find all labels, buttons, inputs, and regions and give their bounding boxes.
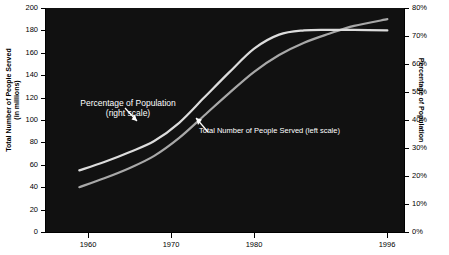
tick-label: 200 bbox=[10, 3, 38, 12]
tick-label: 120 bbox=[10, 93, 38, 102]
tick-mark bbox=[41, 165, 46, 166]
tick-label: 0% bbox=[412, 227, 442, 236]
tick-mark bbox=[387, 233, 388, 238]
tick-mark bbox=[41, 8, 46, 9]
plot-svg bbox=[46, 8, 404, 232]
tick-label: 180 bbox=[10, 25, 38, 34]
right-axis-title: Percentage of Population bbox=[417, 40, 425, 160]
tick-mark bbox=[404, 176, 409, 177]
tick-mark bbox=[41, 187, 46, 188]
tick-mark bbox=[41, 120, 46, 121]
tick-mark bbox=[404, 204, 409, 205]
tick-mark bbox=[88, 233, 89, 238]
chart-container: Total Number of People Served (in millio… bbox=[0, 0, 449, 255]
tick-mark bbox=[404, 36, 409, 37]
tick-mark bbox=[41, 142, 46, 143]
tick-mark bbox=[41, 30, 46, 31]
tick-mark bbox=[41, 210, 46, 211]
tick-label: 60% bbox=[412, 59, 442, 68]
tick-label: 1980 bbox=[234, 240, 274, 249]
tick-label: 20% bbox=[412, 171, 442, 180]
tick-label: 10% bbox=[412, 199, 442, 208]
tick-label: 80 bbox=[10, 137, 38, 146]
truncated-header-text bbox=[44, 0, 244, 4]
tick-mark bbox=[404, 92, 409, 93]
plot-area: Percentage of Population (right scale) T… bbox=[46, 8, 404, 232]
tick-mark bbox=[41, 53, 46, 54]
tick-label: 80% bbox=[412, 3, 442, 12]
tick-mark bbox=[41, 232, 46, 233]
tick-label: 30% bbox=[412, 143, 442, 152]
tick-mark bbox=[254, 233, 255, 238]
tick-label: 70% bbox=[412, 31, 442, 40]
tick-label: 20 bbox=[10, 205, 38, 214]
tick-label: 0 bbox=[10, 227, 38, 236]
tick-label: 1996 bbox=[367, 240, 407, 249]
tick-mark bbox=[404, 64, 409, 65]
tick-mark bbox=[404, 148, 409, 149]
tick-label: 1970 bbox=[151, 240, 191, 249]
axis-line-bottom bbox=[45, 232, 405, 233]
total-served-annotation-label: Total Number of People Served (left scal… bbox=[199, 126, 404, 136]
tick-label: 140 bbox=[10, 70, 38, 79]
tick-mark bbox=[404, 120, 409, 121]
tick-label: 60 bbox=[10, 160, 38, 169]
tick-mark bbox=[171, 233, 172, 238]
tick-mark bbox=[41, 75, 46, 76]
tick-label: 40 bbox=[10, 182, 38, 191]
tick-label: 1960 bbox=[68, 240, 108, 249]
tick-mark bbox=[404, 8, 409, 9]
percentage-annotation-label: Percentage of Population (right scale) bbox=[58, 98, 198, 118]
tick-mark bbox=[41, 98, 46, 99]
tick-label: 40% bbox=[412, 115, 442, 124]
tick-label: 50% bbox=[412, 87, 442, 96]
tick-mark bbox=[404, 232, 409, 233]
tick-label: 160 bbox=[10, 48, 38, 57]
tick-label: 100 bbox=[10, 115, 38, 124]
